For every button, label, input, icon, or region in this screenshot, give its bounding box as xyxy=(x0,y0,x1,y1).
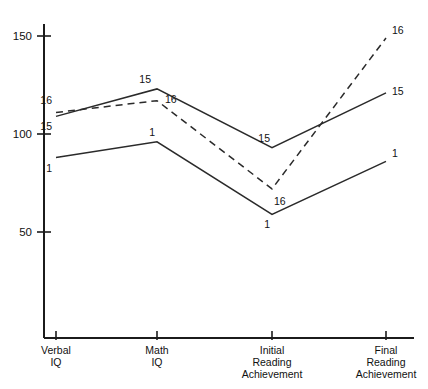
x-axis-label-2: Initial xyxy=(260,344,285,356)
axes xyxy=(44,24,414,338)
x-axis-label-3: Reading xyxy=(366,356,405,368)
point-label-15-3: 15 xyxy=(392,85,404,97)
chart-canvas: 50100150 15151515161616161111 VerbalIQMa… xyxy=(0,0,428,389)
point-label-1-3: 1 xyxy=(392,147,398,159)
x-axis-label-2: Reading xyxy=(252,356,291,368)
series-line-15 xyxy=(56,89,386,148)
x-axis-label-3: Achievement xyxy=(356,368,417,380)
x-axis-label-0: Verbal xyxy=(41,344,71,356)
data-point-labels: 15151515161616161111 xyxy=(40,24,404,230)
x-axis-tick-labels: VerbalIQMathIQInitialReadingAchievementF… xyxy=(41,344,416,380)
point-label-1-1: 1 xyxy=(149,126,155,138)
x-axis-label-0: IQ xyxy=(50,356,61,368)
series-line-1 xyxy=(56,142,386,215)
x-axis-label-1: IQ xyxy=(151,356,162,368)
y-tick-label: 150 xyxy=(13,30,32,42)
y-tick-label: 100 xyxy=(13,128,32,140)
point-label-16-0: 16 xyxy=(40,94,52,106)
point-label-15-2: 15 xyxy=(258,132,270,144)
y-tick-label: 50 xyxy=(19,226,32,238)
x-axis-label-2: Achievement xyxy=(242,368,303,380)
y-axis-ticks: 50100150 xyxy=(13,30,51,238)
line-chart: 50100150 15151515161616161111 VerbalIQMa… xyxy=(0,0,428,389)
point-label-16-3: 16 xyxy=(392,24,404,36)
data-series-group xyxy=(56,38,386,214)
point-label-1-2: 1 xyxy=(264,218,270,230)
point-label-16-2: 16 xyxy=(274,195,286,207)
point-label-15-0: 15 xyxy=(40,120,52,132)
x-axis-label-1: Math xyxy=(145,344,169,356)
series-line-16 xyxy=(56,38,386,189)
point-label-16-1: 16 xyxy=(165,93,177,105)
point-label-1-0: 1 xyxy=(46,162,52,174)
x-axis-label-3: Final xyxy=(375,344,398,356)
point-label-15-1: 15 xyxy=(139,73,151,85)
